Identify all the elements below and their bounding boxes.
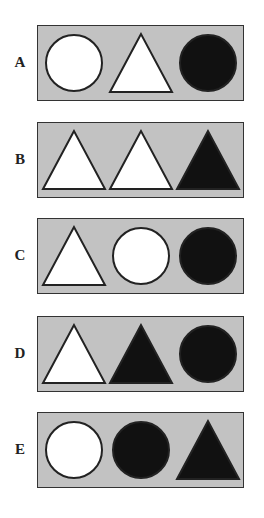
shape-panel — [37, 122, 244, 198]
option-label: B — [12, 151, 28, 168]
option-e[interactable]: E — [0, 412, 264, 491]
black-triangle-icon — [110, 325, 172, 383]
white-triangle-icon — [110, 34, 172, 92]
white-circle-icon — [46, 422, 102, 478]
white-triangle-icon — [43, 131, 105, 189]
black-circle-icon — [113, 422, 169, 478]
option-c[interactable]: C — [0, 218, 264, 297]
option-d[interactable]: D — [0, 316, 264, 395]
shape-panel — [37, 316, 244, 392]
white-triangle-icon — [43, 325, 105, 383]
black-triangle-icon — [177, 131, 239, 189]
shape-panel — [37, 218, 244, 294]
white-circle-icon — [113, 228, 169, 284]
black-circle-icon — [180, 228, 236, 284]
shape-panel — [37, 412, 244, 488]
shape-panel — [37, 25, 244, 101]
white-triangle-icon — [43, 227, 105, 285]
white-triangle-icon — [110, 131, 172, 189]
option-label: D — [12, 345, 28, 362]
black-circle-icon — [180, 35, 236, 91]
black-circle-icon — [180, 326, 236, 382]
option-a[interactable]: A — [0, 25, 264, 104]
option-label: A — [12, 54, 28, 71]
option-b[interactable]: B — [0, 122, 264, 201]
white-circle-icon — [46, 35, 102, 91]
option-label: E — [12, 441, 28, 458]
black-triangle-icon — [177, 421, 239, 479]
option-label: C — [12, 247, 28, 264]
